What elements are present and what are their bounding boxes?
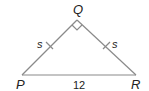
side-pq	[22, 20, 77, 75]
triangle-diagram: Q P R s s 12	[0, 0, 149, 91]
side-label-pq: s	[37, 38, 43, 50]
side-label-pr: 12	[73, 79, 85, 91]
right-angle-marker	[72, 25, 82, 30]
vertex-label-q: Q	[73, 2, 83, 17]
side-qr	[77, 20, 136, 75]
vertex-label-p: P	[16, 77, 25, 91]
vertex-label-r: R	[131, 77, 140, 91]
side-label-qr: s	[112, 38, 118, 50]
